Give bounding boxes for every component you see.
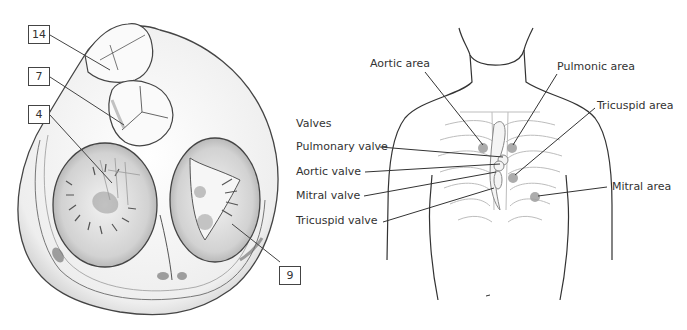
- valve-label-mitral: Mitral valve: [296, 190, 360, 201]
- valve-label-aortic: Aortic valve: [296, 166, 361, 177]
- area-label-aortic: Aortic area: [370, 58, 430, 69]
- valve-label-pulmonary: Pulmonary valve: [296, 141, 388, 152]
- area-label-mitral: Mitral area: [612, 181, 671, 192]
- valve-label-tricuspid: Tricuspid valve: [296, 215, 378, 226]
- diagram-canvas: 14 7 4 9: [0, 0, 687, 330]
- area-label-pulmonic: Pulmonic area: [557, 61, 635, 72]
- auscultation-area-dots: [478, 143, 540, 202]
- valves-heading: Valves: [296, 118, 331, 129]
- tricuspid-area-dot: [508, 173, 518, 183]
- mitral-area-dot: [530, 192, 540, 202]
- area-label-tricuspid: Tricuspid area: [597, 100, 673, 111]
- pulmonic-area-dot: [507, 143, 517, 153]
